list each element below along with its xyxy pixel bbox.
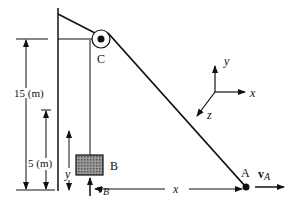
dim-y-label: y: [64, 167, 71, 181]
axis-z-label: z: [206, 108, 212, 122]
axis-x-label: x: [249, 86, 256, 100]
rope-top-segment: [58, 14, 95, 33]
velocity-a-label: vA: [258, 167, 271, 182]
block-b: [76, 155, 103, 175]
dim-15-label: 15 (m): [14, 87, 44, 100]
axis-y-label: y: [223, 54, 230, 68]
dim-5-label: 5 (m): [28, 157, 52, 170]
pulley-label: C: [97, 52, 105, 66]
pulley-diagram: C B vB 15 (m) 5 (m) y x A vA y x z: [0, 0, 298, 204]
block-label: B: [110, 159, 118, 173]
pulley-c-hub: [98, 36, 105, 43]
axis-z-arrow: [197, 92, 215, 116]
point-a-label: A: [241, 166, 250, 180]
point-a: [243, 184, 250, 191]
dim-x-label: x: [172, 182, 179, 196]
coordinate-axes: y x z: [197, 54, 256, 122]
